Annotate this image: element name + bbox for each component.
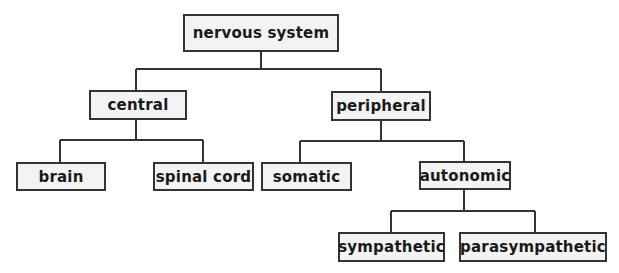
nervous-system-tree-diagram: nervous system central peripheral brain … <box>0 0 619 273</box>
node-sympathetic: sympathetic <box>338 232 445 262</box>
node-peripheral: peripheral <box>331 91 431 121</box>
node-parasympathetic: parasympathetic <box>459 232 607 262</box>
node-nervous-system: nervous system <box>183 14 339 52</box>
node-spinal-cord: spinal cord <box>153 162 254 191</box>
node-somatic: somatic <box>261 162 352 191</box>
node-autonomic: autonomic <box>419 161 511 190</box>
node-brain: brain <box>16 162 106 191</box>
node-central: central <box>89 90 187 120</box>
